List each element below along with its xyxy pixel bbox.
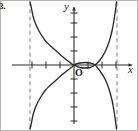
graph-figure: 3. y x O (0, 0, 138, 131)
coordinate-plane-svg (0, 0, 138, 131)
item-number-label: 3. (0, 2, 5, 11)
origin-label: O (75, 68, 83, 78)
x-axis-label: x (128, 64, 133, 75)
y-axis-label: y (64, 1, 69, 12)
